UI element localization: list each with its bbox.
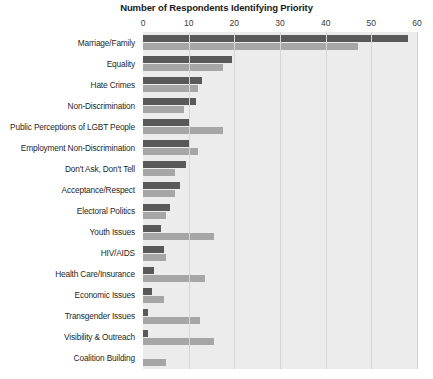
bar: [143, 225, 161, 232]
bar: [143, 64, 223, 71]
x-axis-tick-40: 40: [321, 18, 330, 28]
category-label: Non-Discrimination: [0, 95, 139, 116]
x-axis-tick-50: 50: [367, 18, 376, 28]
x-axis-tick-60: 60: [412, 18, 421, 28]
bar: [143, 254, 166, 261]
bar: [143, 56, 232, 63]
x-axis-tick-30: 30: [275, 18, 284, 28]
bar: [143, 106, 184, 113]
bar: [143, 35, 408, 42]
bar: [143, 182, 180, 189]
category-label: Hate Crimes: [0, 74, 139, 95]
x-axis: 0102030405060: [143, 18, 417, 30]
bar: [143, 212, 166, 219]
category-label: Youth Issues: [0, 222, 139, 243]
bar: [143, 119, 189, 126]
bar-chart: Number of Respondents Identifying Priori…: [0, 0, 433, 379]
chart-title: Number of Respondents Identifying Priori…: [0, 2, 433, 13]
bar: [143, 296, 164, 303]
bar: [143, 288, 152, 295]
category-label: HIV/AIDS: [0, 243, 139, 264]
category-axis-labels: Marriage/FamilyEqualityHate CrimesNon-Di…: [0, 32, 139, 369]
category-label: Economic Issues: [0, 285, 139, 306]
x-axis-tick-10: 10: [184, 18, 193, 28]
bar: [143, 204, 170, 211]
category-label: Public Perceptions of LGBT People: [0, 116, 139, 137]
bar: [143, 309, 148, 316]
gridline: [234, 32, 235, 369]
category-label: Visibility & Outreach: [0, 327, 139, 348]
category-label: Equality: [0, 53, 139, 74]
bar: [143, 169, 175, 176]
bar: [143, 140, 189, 147]
gridline: [189, 32, 190, 369]
category-label: Health Care/Insurance: [0, 264, 139, 285]
category-label: Marriage/Family: [0, 32, 139, 53]
bar: [143, 267, 154, 274]
bar: [143, 359, 166, 366]
gridline: [326, 32, 327, 369]
category-label: Electoral Politics: [0, 201, 139, 222]
x-axis-tick-0: 0: [141, 18, 146, 28]
gridline: [371, 32, 372, 369]
category-label: Acceptance/Respect: [0, 179, 139, 200]
bar: [143, 161, 186, 168]
bar: [143, 98, 196, 105]
bar: [143, 330, 148, 337]
bar: [143, 275, 205, 282]
category-label: Employment Non-Discrimination: [0, 137, 139, 158]
bar: [143, 338, 214, 345]
plot-area: [143, 32, 418, 369]
category-label: Coalition Building: [0, 348, 139, 369]
bar: [143, 190, 175, 197]
x-axis-tick-20: 20: [230, 18, 239, 28]
category-label: Transgender Issues: [0, 306, 139, 327]
bar: [143, 233, 214, 240]
bar: [143, 77, 202, 84]
bar: [143, 317, 200, 324]
category-label: Don't Ask, Don't Tell: [0, 158, 139, 179]
bar: [143, 246, 164, 253]
gridline: [280, 32, 281, 369]
bar: [143, 127, 223, 134]
